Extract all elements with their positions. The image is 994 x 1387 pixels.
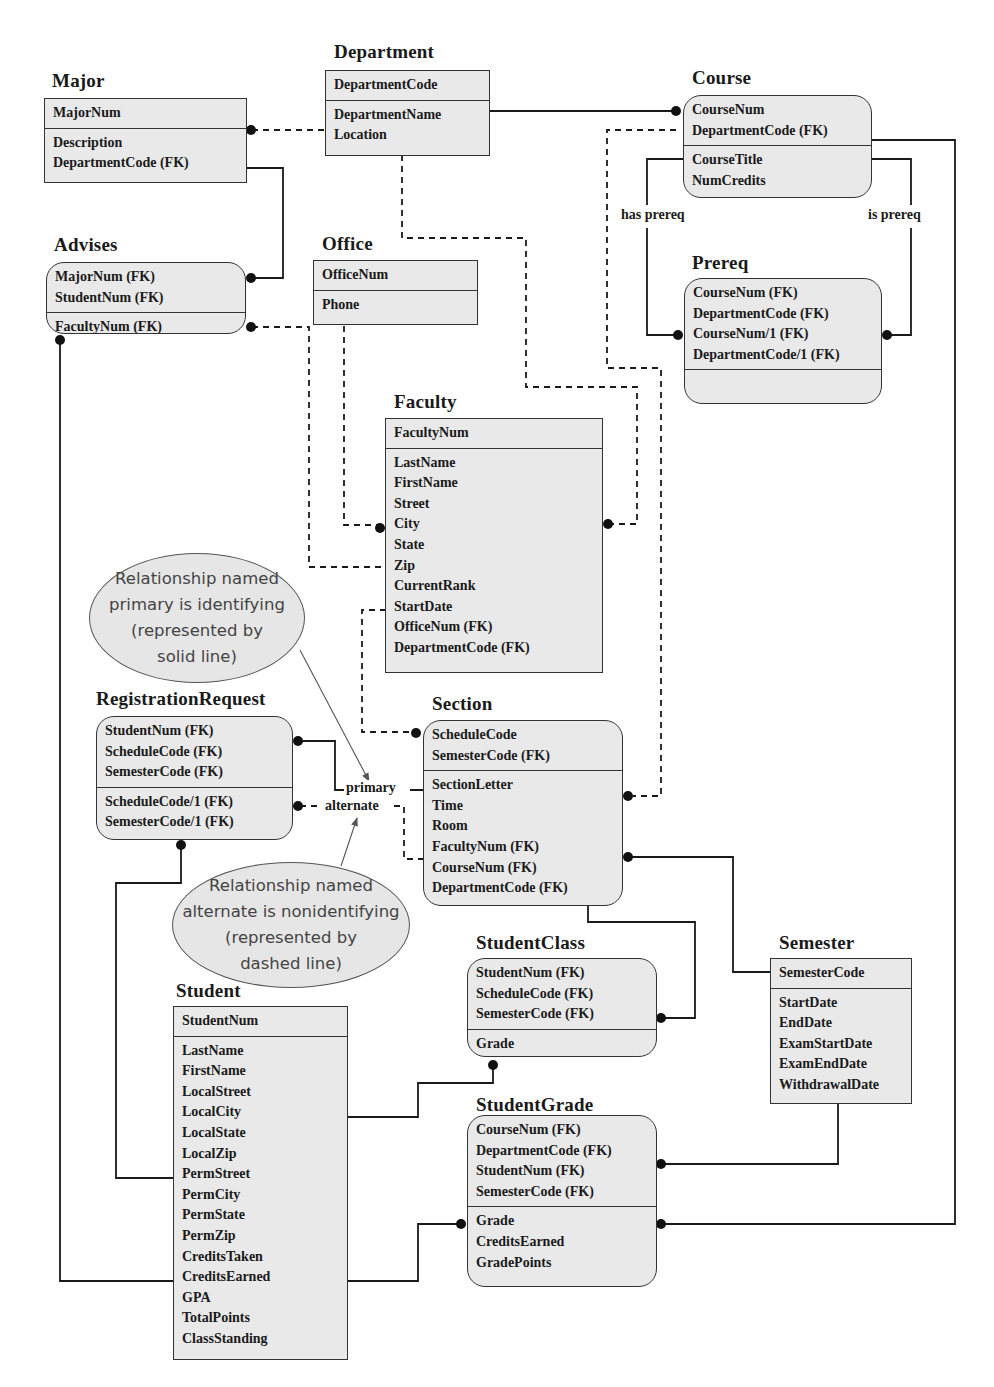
entity-title: StudentGrade xyxy=(476,1094,593,1116)
pk-attribute: DepartmentCode (FK) xyxy=(476,1141,648,1162)
attribute: FirstName xyxy=(182,1061,339,1082)
line-office-faculty xyxy=(344,326,380,525)
entity-title: Prereq xyxy=(692,252,748,274)
pk-attribute: SemesterCode (FK) xyxy=(476,1182,648,1203)
entity-box: CourseNum DepartmentCode (FK) CourseTitl… xyxy=(683,95,872,198)
note-line: alternate is nonidentifying xyxy=(182,899,399,925)
attribute: SemesterCode/1 (FK) xyxy=(105,812,284,833)
attribute: Grade xyxy=(476,1211,648,1232)
pk-attribute: ScheduleCode (FK) xyxy=(476,984,648,1005)
line-course-section xyxy=(607,130,676,796)
line-has-prereq xyxy=(647,159,683,335)
attribute: LastName xyxy=(182,1041,339,1062)
entity-title: StudentClass xyxy=(476,932,585,954)
attribute: ClassStanding xyxy=(182,1329,339,1350)
entity-title: Office xyxy=(322,233,373,255)
attribute: DepartmentName xyxy=(334,105,481,126)
attribute: Grade xyxy=(476,1034,648,1055)
pk-attribute: StudentNum (FK) xyxy=(105,721,284,742)
attribute: LocalState xyxy=(182,1123,339,1144)
relationship-label-primary: primary xyxy=(345,780,397,796)
entity-title: Section xyxy=(432,693,493,715)
attribute: PermState xyxy=(182,1205,339,1226)
attribute: DepartmentCode (FK) xyxy=(53,153,238,174)
attribute: LocalZip xyxy=(182,1144,339,1165)
note-identifying-relationship: Relationship named primary is identifyin… xyxy=(89,553,305,683)
entity-box: OfficeNum Phone xyxy=(313,260,478,325)
note-arrow-identifying xyxy=(300,650,369,781)
note-line: (represented by xyxy=(109,618,285,644)
pk-attribute: CourseNum xyxy=(692,100,863,121)
entity-title: Faculty xyxy=(394,391,457,413)
line-section-semester xyxy=(628,857,770,972)
attribute: EndDate xyxy=(779,1013,903,1034)
attribute: CreditsEarned xyxy=(476,1232,648,1253)
attribute: OfficeNum (FK) xyxy=(394,617,594,638)
attribute: CreditsTaken xyxy=(182,1247,339,1268)
attribute: FacultyNum (FK) xyxy=(432,837,614,858)
attribute: PermCity xyxy=(182,1185,339,1206)
line-major-advises xyxy=(246,168,283,278)
attribute: FirstName xyxy=(394,473,594,494)
note-line: dashed line) xyxy=(182,951,399,977)
pk-attribute: CourseNum (FK) xyxy=(693,283,873,304)
attribute: Zip xyxy=(394,556,594,577)
note-line: solid line) xyxy=(109,644,285,670)
attribute: Street xyxy=(394,494,594,515)
note-line: Relationship named xyxy=(109,566,285,592)
attribute: Phone xyxy=(322,295,469,316)
attribute: GPA xyxy=(182,1288,339,1309)
pk-attribute: ScheduleCode (FK) xyxy=(105,742,284,763)
attribute: LocalCity xyxy=(182,1102,339,1123)
attribute: SectionLetter xyxy=(432,775,614,796)
attribute: ExamEndDate xyxy=(779,1054,903,1075)
attribute: StartDate xyxy=(779,993,903,1014)
attribute: WithdrawalDate xyxy=(779,1075,903,1096)
attribute: State xyxy=(394,535,594,556)
pk-attribute: ScheduleCode xyxy=(432,725,614,746)
entity-box: StudentNum (FK) ScheduleCode (FK) Semest… xyxy=(96,716,293,840)
entity-title: RegistrationRequest xyxy=(96,688,266,710)
entity-box: CourseNum (FK) DepartmentCode (FK) Stude… xyxy=(467,1115,657,1287)
pk-attribute: SemesterCode (FK) xyxy=(105,762,284,783)
pk-attribute: DepartmentCode (FK) xyxy=(693,304,873,325)
note-line: primary is identifying xyxy=(109,592,285,618)
entity-title: Student xyxy=(176,980,241,1002)
pk-attribute: DepartmentCode xyxy=(334,75,481,96)
attribute: Location xyxy=(334,125,481,146)
relationship-label-has-prereq: has prereq xyxy=(620,207,686,223)
pk-attribute: DepartmentCode (FK) xyxy=(692,121,863,142)
entity-box: CourseNum (FK) DepartmentCode (FK) Cours… xyxy=(684,278,882,404)
attribute: FacultyNum (FK) xyxy=(55,317,237,334)
pk-attribute: StudentNum (FK) xyxy=(476,963,648,984)
attribute: ScheduleCode/1 (FK) xyxy=(105,792,284,813)
pk-attribute: OfficeNum xyxy=(322,265,469,286)
attribute: CreditsEarned xyxy=(182,1267,339,1288)
attribute: Time xyxy=(432,796,614,817)
pk-attribute: CourseNum (FK) xyxy=(476,1120,648,1141)
attribute: StartDate xyxy=(394,597,594,618)
pk-attribute: StudentNum xyxy=(182,1011,339,1032)
entity-box: StudentNum LastName FirstName LocalStree… xyxy=(173,1006,348,1360)
pk-attribute: CourseNum/1 (FK) xyxy=(693,324,873,345)
attribute: NumCredits xyxy=(692,171,863,192)
attribute: PermStreet xyxy=(182,1164,339,1185)
note-arrow-nonidentifying xyxy=(341,818,357,866)
pk-attribute: SemesterCode (FK) xyxy=(476,1004,648,1025)
pk-attribute: FacultyNum xyxy=(394,423,594,444)
attribute: City xyxy=(394,514,594,535)
pk-attribute: StudentNum (FK) xyxy=(476,1161,648,1182)
note-nonidentifying-relationship: Relationship named alternate is nonident… xyxy=(172,862,410,988)
pk-attribute: SemesterCode (FK) xyxy=(432,746,614,767)
attribute: ExamStartDate xyxy=(779,1034,903,1055)
entity-box: DepartmentCode DepartmentName Location xyxy=(325,70,490,156)
pk-attribute: MajorNum xyxy=(53,103,238,124)
attribute: TotalPoints xyxy=(182,1308,339,1329)
relationship-label-is-prereq: is prereq xyxy=(867,207,922,223)
line-student-studentclass xyxy=(347,1063,493,1117)
pk-attribute: StudentNum (FK) xyxy=(55,288,237,309)
entity-title: Course xyxy=(692,67,751,89)
attribute: CourseTitle xyxy=(692,150,863,171)
entity-title: Major xyxy=(52,70,105,92)
note-line: (represented by xyxy=(182,925,399,951)
